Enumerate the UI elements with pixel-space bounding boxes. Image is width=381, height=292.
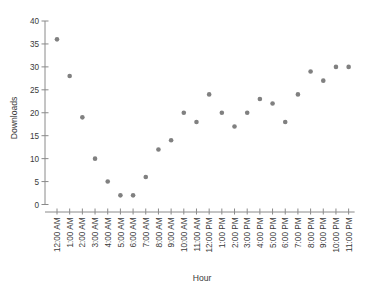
data-point-6	[131, 193, 136, 198]
x-tick-label-4: 4:00 AM	[104, 217, 113, 247]
x-tick-label-7: 7:00 AM	[142, 217, 151, 247]
x-axis-title: Hour	[193, 273, 212, 283]
data-point-22	[334, 65, 339, 70]
data-point-5	[118, 193, 123, 198]
data-point-4	[105, 179, 110, 184]
x-tick-label-19: 7:00 PM	[294, 217, 303, 248]
data-point-1	[67, 74, 72, 79]
x-tick-label-23: 11:00 PM	[345, 217, 354, 252]
y-tick-label-5: 5	[34, 178, 39, 187]
y-tick-label-30: 30	[30, 63, 40, 72]
x-tick-label-14: 2:00 PM	[231, 217, 240, 248]
chart-canvas: 051015202530354012:00 AM1:00 AM2:00 AM3:…	[0, 0, 381, 292]
data-point-21	[321, 78, 326, 83]
x-tick-label-10: 10:00 AM	[180, 217, 189, 252]
x-tick-label-0: 12:00 AM	[53, 217, 62, 252]
x-tick-label-21: 9:00 PM	[319, 217, 328, 248]
data-point-11	[194, 120, 199, 125]
data-point-3	[93, 156, 98, 161]
y-tick-label-40: 40	[30, 17, 40, 26]
x-tick-label-5: 5:00 AM	[117, 217, 126, 247]
data-point-10	[182, 110, 187, 115]
data-point-16	[258, 97, 263, 102]
y-tick-label-10: 10	[30, 155, 40, 164]
data-point-18	[283, 120, 288, 125]
data-point-23	[346, 65, 351, 70]
x-tick-label-17: 5:00 PM	[269, 217, 278, 248]
data-point-7	[143, 175, 148, 180]
y-tick-label-15: 15	[30, 132, 40, 141]
x-tick-label-8: 8:00 AM	[155, 217, 164, 247]
data-point-12	[207, 92, 212, 97]
data-point-0	[55, 37, 60, 42]
data-point-15	[245, 110, 250, 115]
data-point-8	[156, 147, 161, 152]
scatter-chart: 051015202530354012:00 AM1:00 AM2:00 AM3:…	[0, 0, 381, 292]
y-tick-label-0: 0	[34, 201, 39, 210]
x-tick-label-9: 9:00 AM	[167, 217, 176, 247]
data-point-9	[169, 138, 174, 143]
data-point-14	[232, 124, 237, 129]
x-tick-label-22: 10:00 PM	[332, 217, 341, 252]
y-tick-label-25: 25	[30, 86, 40, 95]
x-tick-label-1: 1:00 AM	[66, 217, 75, 247]
x-tick-label-11: 11:00 AM	[193, 217, 202, 251]
data-point-17	[270, 101, 275, 106]
x-tick-label-12: 12:00 PM	[205, 217, 214, 252]
x-tick-label-13: 1:00 PM	[218, 217, 227, 248]
x-tick-label-6: 6:00 AM	[129, 217, 138, 247]
y-tick-label-20: 20	[30, 109, 40, 118]
y-tick-label-35: 35	[30, 40, 40, 49]
data-point-20	[308, 69, 313, 74]
data-point-2	[80, 115, 85, 120]
x-tick-label-3: 3:00 AM	[91, 217, 100, 247]
x-tick-label-15: 3:00 PM	[243, 217, 252, 248]
data-point-19	[296, 92, 301, 97]
x-tick-label-20: 8:00 PM	[307, 217, 316, 248]
y-axis-title: Downloads	[9, 97, 19, 140]
data-point-13	[220, 110, 225, 115]
x-tick-label-2: 2:00 AM	[78, 217, 87, 247]
x-tick-label-16: 4:00 PM	[256, 217, 265, 248]
x-tick-label-18: 6:00 PM	[281, 217, 290, 248]
